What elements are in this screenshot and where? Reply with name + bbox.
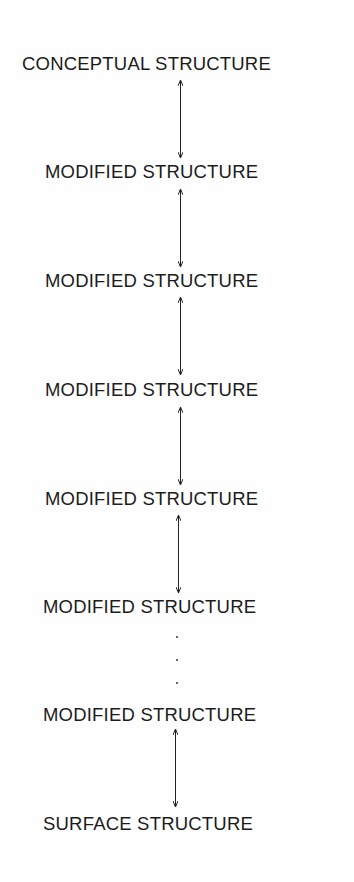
- node-modified-structure-6: MODIFIED STRUCTURE: [43, 705, 256, 725]
- ellipsis-dot: [176, 636, 178, 638]
- node-surface-structure: SURFACE STRUCTURE: [43, 814, 253, 834]
- bidirectional-arrow-icon: [176, 515, 181, 593]
- bidirectional-arrow-icon: [178, 407, 183, 485]
- node-modified-structure-2: MODIFIED STRUCTURE: [45, 271, 258, 291]
- ellipsis-dot: [176, 682, 178, 684]
- bidirectional-arrow-icon: [173, 729, 178, 807]
- node-modified-structure-1: MODIFIED STRUCTURE: [45, 162, 258, 182]
- node-modified-structure-4: MODIFIED STRUCTURE: [45, 489, 258, 509]
- bidirectional-arrow-icon: [178, 189, 183, 267]
- node-modified-structure-5: MODIFIED STRUCTURE: [43, 597, 256, 617]
- bidirectional-arrow-icon: [178, 297, 183, 375]
- node-conceptual-structure: CONCEPTUAL STRUCTURE: [22, 54, 271, 74]
- ellipsis-dot: [176, 659, 178, 661]
- bidirectional-arrow-icon: [178, 80, 183, 158]
- node-modified-structure-3: MODIFIED STRUCTURE: [45, 380, 258, 400]
